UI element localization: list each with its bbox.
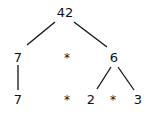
- edge-42-7: [27, 22, 55, 45]
- node-l2-4-star: *: [110, 94, 116, 107]
- root-node: 42: [57, 6, 74, 19]
- node-l2-2-star: *: [64, 94, 70, 107]
- tree-edges: [0, 0, 150, 114]
- node-l1-left: 7: [14, 51, 22, 64]
- node-l1-middle-star: *: [64, 52, 70, 65]
- node-l2-1: 7: [14, 93, 22, 106]
- node-l2-3: 2: [87, 93, 95, 106]
- node-l1-right: 6: [110, 51, 118, 64]
- node-l2-5: 3: [134, 93, 142, 106]
- edge-6-3: [118, 67, 134, 90]
- edge-42-6: [74, 22, 107, 47]
- edge-6-2: [97, 67, 111, 89]
